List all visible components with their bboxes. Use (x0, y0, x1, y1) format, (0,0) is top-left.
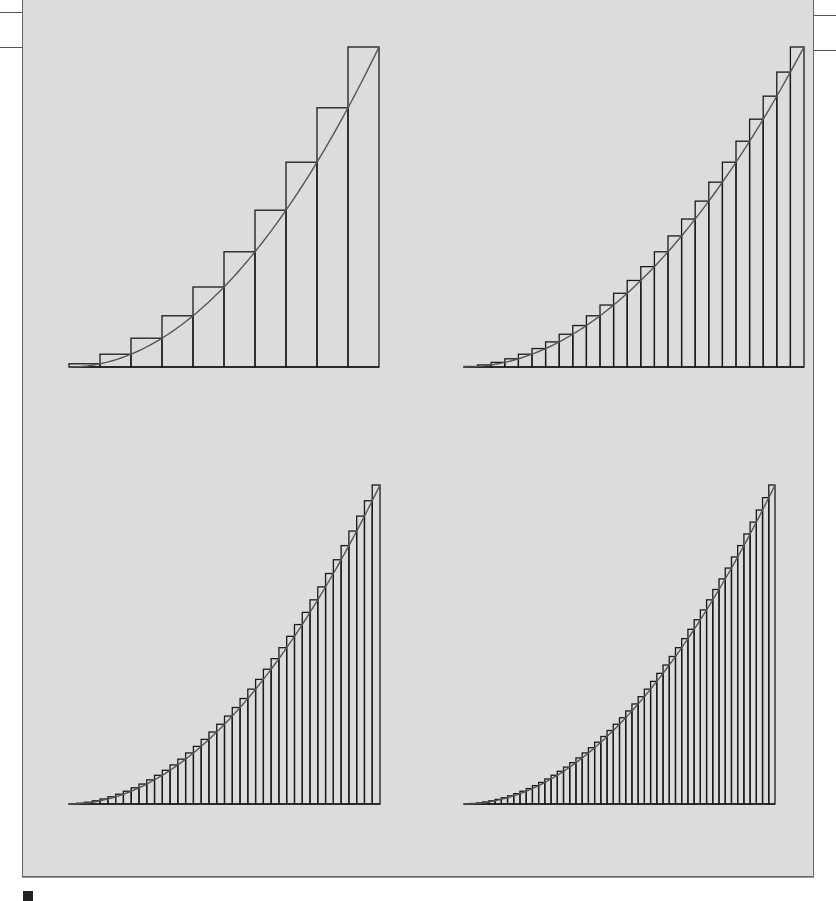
riemann-rectangle (564, 767, 570, 804)
riemann-rectangle (700, 610, 706, 804)
riemann-rectangle (644, 689, 650, 804)
riemann-rectangle (348, 47, 379, 367)
riemann-rectangle (588, 748, 594, 804)
riemann-rectangle (240, 699, 248, 804)
riemann-rectangle (607, 731, 613, 805)
riemann-rectangle (756, 510, 762, 804)
riemann-rectangle (654, 252, 668, 367)
riemann-rectangle (713, 590, 719, 805)
riemann-rectangle (719, 579, 725, 804)
page-rule-top-right-2 (812, 50, 836, 51)
riemann-rectangle (294, 625, 302, 804)
page-corner-mark (23, 891, 33, 901)
riemann-rectangle (232, 708, 240, 805)
riemann-rectangle (725, 568, 731, 804)
riemann-rectangle (570, 763, 576, 804)
riemann-rectangle (341, 546, 349, 804)
riemann-rectangle (620, 718, 626, 804)
riemann-rectangle (333, 560, 341, 804)
riemann-sum-plot (463, 484, 776, 805)
riemann-rectangle (582, 753, 588, 804)
riemann-rectangle (287, 636, 295, 804)
riemann-rectangle (695, 201, 709, 367)
riemann-rectangle (186, 753, 194, 804)
riemann-rectangle (682, 219, 696, 367)
riemann-panel-n50 (463, 484, 776, 805)
riemann-rectangle (318, 587, 326, 804)
riemann-rectangle (317, 108, 348, 367)
riemann-rectangle (576, 758, 582, 804)
riemann-rectangle (349, 531, 357, 804)
riemann-rectangle (688, 629, 694, 804)
riemann-rectangle (310, 600, 318, 804)
riemann-rectangle (201, 739, 209, 804)
riemann-rectangle (769, 485, 775, 804)
riemann-rectangle (271, 659, 279, 804)
riemann-rectangle (255, 210, 286, 367)
page-rule-top-left (0, 12, 22, 13)
riemann-rectangle (193, 287, 224, 367)
riemann-rectangle (162, 316, 193, 367)
riemann-rectangle (632, 704, 638, 804)
riemann-rectangle (641, 267, 655, 367)
riemann-sum-plot (68, 46, 380, 368)
riemann-rectangle (279, 648, 287, 804)
riemann-rectangle (722, 162, 736, 367)
figure-frame (22, 0, 814, 877)
riemann-rectangle (263, 669, 271, 804)
riemann-rectangle (372, 485, 380, 804)
riemann-rectangle (573, 326, 587, 367)
riemann-sum-plot (68, 484, 381, 805)
riemann-rectangle (682, 639, 688, 804)
page-rule-top-left-2 (0, 47, 22, 48)
riemann-rectangle (738, 546, 744, 804)
riemann-rectangle (669, 656, 675, 804)
riemann-rectangle (790, 47, 804, 367)
riemann-rectangle (651, 681, 657, 804)
riemann-rectangle (225, 716, 233, 804)
riemann-rectangle (750, 522, 756, 804)
riemann-rectangle (364, 501, 372, 804)
curve-y-equals-x-squared (464, 47, 804, 367)
riemann-panel-n25 (463, 46, 805, 368)
riemann-rectangle (302, 612, 310, 804)
riemann-rectangle (663, 665, 669, 804)
riemann-rectangle (763, 96, 777, 367)
riemann-rectangle (193, 746, 201, 804)
riemann-rectangle (286, 162, 317, 367)
riemann-rectangle (551, 775, 557, 804)
riemann-rectangle (557, 771, 563, 804)
riemann-rectangle (559, 334, 573, 367)
riemann-rectangle (763, 498, 769, 804)
riemann-rectangle (707, 600, 713, 804)
riemann-panel-n40 (68, 484, 381, 805)
riemann-sum-plot (463, 46, 805, 368)
riemann-rectangle (777, 72, 791, 367)
riemann-rectangle (613, 724, 619, 804)
riemann-rectangle (357, 516, 365, 804)
riemann-rectangle (209, 732, 217, 804)
riemann-rectangle (217, 724, 225, 804)
riemann-rectangle (657, 673, 663, 804)
riemann-panel-n10 (68, 46, 380, 368)
riemann-rectangle (638, 697, 644, 804)
riemann-rectangle (178, 759, 186, 804)
page-rule-top-right (812, 15, 836, 16)
riemann-rectangle (736, 141, 750, 367)
riemann-rectangle (668, 236, 682, 367)
riemann-rectangle (744, 534, 750, 804)
riemann-rectangle (614, 293, 628, 367)
riemann-rectangle (326, 574, 334, 804)
riemann-rectangle (627, 280, 641, 367)
riemann-rectangle (224, 252, 255, 367)
riemann-rectangle (248, 689, 256, 804)
riemann-rectangle (545, 779, 551, 804)
riemann-rectangle (626, 711, 632, 804)
riemann-rectangle (595, 742, 601, 804)
riemann-rectangle (170, 765, 178, 804)
riemann-rectangle (256, 679, 264, 804)
riemann-rectangle (675, 648, 681, 804)
riemann-rectangle (601, 737, 607, 805)
riemann-rectangle (709, 182, 723, 367)
riemann-rectangle (731, 557, 737, 804)
